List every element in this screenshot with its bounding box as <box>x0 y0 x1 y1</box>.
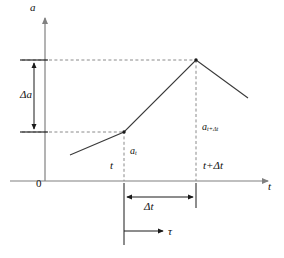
tau-label: τ <box>168 226 172 237</box>
acceleration-curve <box>70 60 248 155</box>
delta-t-label: Δt <box>144 201 154 212</box>
a-at-t-plus-dt-label: at+Δt <box>202 122 218 133</box>
figure-canvas <box>0 0 284 258</box>
axes-group <box>10 18 268 181</box>
origin-label: 0 <box>36 178 42 189</box>
data-point-a-t-plus-dt <box>194 58 197 61</box>
acceleration-time-figure: a t 0 Δa Δt τ at at+Δt t t+Δt <box>0 0 284 258</box>
a-at-t-subscript: t <box>135 149 137 156</box>
acceleration-curve-group <box>70 58 248 155</box>
y-axis-label: a <box>30 2 36 13</box>
delta-a-label: Δa <box>20 89 32 100</box>
x-tick-label-t-plus-dt: t+Δt <box>203 160 223 171</box>
data-point-a-t <box>122 130 125 133</box>
a-at-t-label: at <box>130 146 137 157</box>
axis-extensions-group <box>124 183 196 245</box>
x-axis-label: t <box>268 181 271 192</box>
a-at-t-plus-dt-subscript: t+Δt <box>207 125 218 132</box>
reference-lines-group <box>22 60 196 181</box>
x-tick-label-t: t <box>110 160 113 171</box>
